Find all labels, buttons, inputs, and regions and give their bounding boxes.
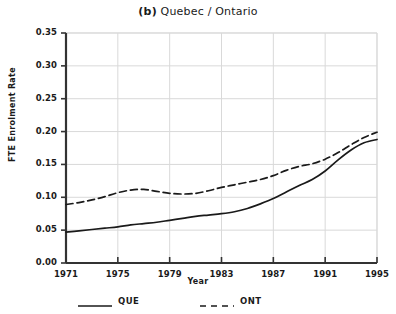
legend-label: ONT	[240, 296, 261, 306]
legend-label: QUE	[118, 296, 139, 306]
chart-figure: (b) Quebec / Ontario FTE Enrolment Rate …	[0, 0, 396, 314]
legend-entry-ont[interactable]: ONT	[200, 294, 261, 308]
plot-area	[0, 0, 396, 314]
legend-swatch-que	[78, 296, 112, 306]
chart-legend: QUEONT	[0, 294, 396, 312]
gridlines	[66, 33, 377, 263]
legend-swatch-ont	[200, 296, 234, 306]
legend-entry-que[interactable]: QUE	[78, 294, 139, 308]
